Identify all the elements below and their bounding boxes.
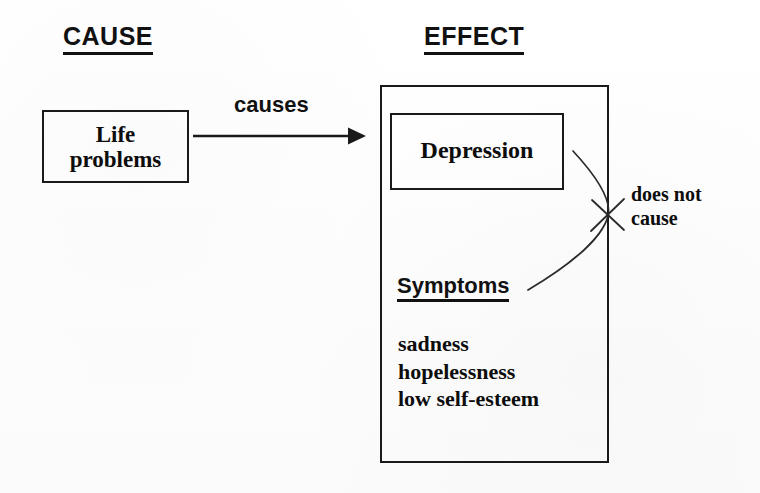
cause-box-line1: Life (42, 122, 189, 148)
causes-arrow (193, 128, 366, 145)
negation-label-line2: cause (631, 207, 702, 231)
cause-box-line2: problems (42, 147, 189, 173)
negation-label-line1: does not (631, 183, 702, 207)
depression-label: Depression (390, 137, 564, 164)
arrow-label-causes: causes (234, 92, 309, 118)
heading-cause: CAUSE (63, 22, 153, 55)
symptoms-heading: Symptoms (397, 273, 509, 302)
symptom-item: hopelessness (398, 358, 539, 386)
symptom-list: sadness hopelessness low self-esteem (398, 330, 539, 413)
symptom-item: sadness (398, 330, 539, 358)
heading-effect: EFFECT (424, 22, 524, 55)
heading-cause-label: CAUSE (63, 22, 153, 55)
diagram-canvas: CAUSE EFFECT Life problems causes Depres… (0, 0, 760, 493)
negation-label: does not cause (631, 183, 702, 230)
heading-effect-label: EFFECT (424, 22, 524, 55)
symptoms-heading-label: Symptoms (397, 273, 509, 302)
symptom-item: low self-esteem (398, 385, 539, 413)
